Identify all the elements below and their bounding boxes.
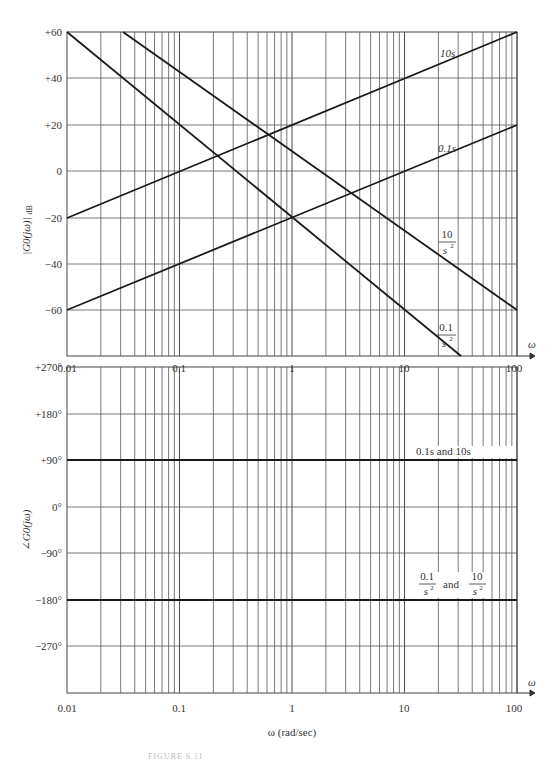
tick-label: 0.1 [172, 702, 186, 714]
arrow-right-icon [530, 353, 535, 359]
tick-label: 100 [506, 362, 523, 374]
phase-x-ticks: 0.01 0.1 1 10 100 [57, 702, 522, 714]
svg-text:10: 10 [442, 228, 454, 240]
tick-label: 1 [289, 702, 295, 714]
annotation-10-over-s2: 10 s 2 [439, 228, 456, 256]
tick-label: −180° [35, 594, 62, 606]
tick-label: −20 [45, 212, 63, 224]
svg-text:s: s [424, 585, 428, 597]
magnitude-grid [67, 32, 517, 356]
tick-label: +180° [35, 408, 62, 420]
svg-text:2: 2 [479, 584, 483, 592]
annotation-phase-minus180: 0.1 s 2 and 10 s 2 [417, 570, 489, 598]
svg-text:s: s [443, 244, 447, 256]
tick-label: −40 [45, 258, 63, 270]
magnitude-y-ticks: +60 +40 +20 0 −20 −40 −60 [45, 26, 63, 316]
tick-label: 0° [52, 501, 62, 513]
svg-text:and: and [443, 578, 459, 590]
tick-label: 10 [399, 702, 411, 714]
tick-label: 0.01 [57, 362, 76, 374]
tick-label: 10 [399, 362, 411, 374]
magnitude-x-ticks: 0.01 0.1 1 10 100 [57, 362, 522, 374]
omega-label: ω [528, 676, 536, 688]
figure-caption: FIGURE 6.11 [148, 752, 204, 761]
tick-label: 1 [289, 362, 295, 374]
tick-label: 0.01 [57, 702, 76, 714]
omega-axis-arrows [517, 353, 535, 696]
tick-label: +90° [40, 454, 62, 466]
phase-y-axis-title: ∠G0(jω) [20, 509, 33, 550]
tick-label: 100 [506, 702, 523, 714]
svg-text:2: 2 [449, 335, 453, 343]
x-axis-title: ω (rad/sec) [268, 726, 317, 739]
tick-label: −270° [35, 640, 62, 652]
annotation-10s: 10s [440, 47, 455, 59]
phase-grid [67, 367, 517, 693]
svg-text:2: 2 [430, 584, 434, 592]
tick-label: +60 [45, 26, 63, 38]
omega-label: ω [528, 338, 536, 350]
phase-y-ticks: +270° +180° +90° 0° −90° −180° −270° [35, 361, 62, 652]
svg-text:s: s [442, 337, 446, 349]
annotation-phase-plus90: 0.1s and 10s [416, 445, 471, 457]
svg-text:s: s [473, 585, 477, 597]
bode-plot: +60 +40 +20 0 −20 −40 −60 +270° +180° +9… [0, 0, 553, 764]
tick-label: −90° [40, 547, 62, 559]
magnitude-y-axis-title: |G0(jω)| dB [20, 205, 34, 255]
svg-text:10: 10 [472, 570, 484, 582]
svg-text:2: 2 [450, 242, 454, 250]
svg-text:0.1: 0.1 [420, 570, 434, 582]
svg-text:0.1: 0.1 [439, 321, 453, 333]
tick-label: 0 [57, 165, 63, 177]
tick-label: +20 [45, 119, 63, 131]
tick-label: −60 [45, 304, 63, 316]
tick-label: +40 [45, 72, 63, 84]
arrow-right-icon [530, 690, 535, 696]
annotation-0.1s: 0.1s [438, 142, 456, 154]
tick-label: 0.1 [172, 362, 186, 374]
